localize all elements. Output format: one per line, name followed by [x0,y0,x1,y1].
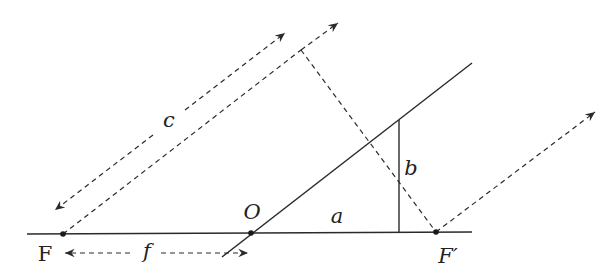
dashed-ray-from-F [63,50,301,234]
label-F: F [38,244,53,265]
dashed-ray-from-F-prime [436,112,595,232]
c-dimension-lower [55,135,153,210]
oblique-line [222,63,472,257]
point-F [60,231,66,237]
geometry-diagram [0,0,615,277]
point-F-prime [433,229,439,235]
dashed-arrow-from-corner [301,23,338,50]
label-F-prime: F′ [438,246,457,267]
c-dimension-upper [185,33,285,110]
label-a: a [331,206,344,227]
dashed-perpendicular [301,50,436,232]
label-O: O [243,202,260,223]
label-b: b [404,158,417,179]
label-c: c [163,110,175,131]
point-O [248,230,254,236]
label-f: f [143,241,151,262]
